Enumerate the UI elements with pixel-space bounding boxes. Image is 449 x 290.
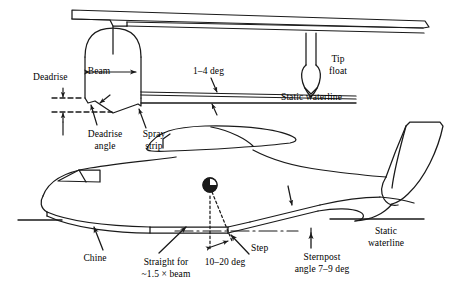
spray-strip-leader	[139, 109, 146, 128]
label-static-waterline-top: Static waterline	[281, 92, 342, 103]
label-sternpost-line1: Sternpost	[304, 252, 341, 263]
label-static-waterline-bottom-line2: waterline	[368, 238, 404, 249]
label-deadrise-angle-line2: angle	[94, 141, 115, 152]
straight-for-leader	[159, 227, 186, 253]
label-beam: Beam	[88, 66, 111, 77]
afterbody-angle-leader	[288, 186, 292, 205]
label-trim-angle: 1–4 deg	[193, 66, 224, 77]
label-deadrise-angle-line1: Deadrise	[88, 129, 123, 140]
label-static-waterline-bottom-line1: Static	[375, 226, 397, 237]
cg-reference-lines	[210, 192, 232, 250]
step-leader	[231, 235, 249, 254]
label-spray-strip-line2: strip	[145, 141, 162, 152]
deadrise-dimension	[52, 88, 112, 135]
wing-front-view	[72, 10, 429, 54]
figure-container: Deadrise Beam Deadrise angle Spray strip…	[0, 0, 449, 290]
label-deadrise: Deadrise	[33, 72, 68, 83]
label-step: Step	[251, 243, 268, 254]
label-sternpost-line2: angle 7–9 deg	[295, 264, 350, 275]
label-chine: Chine	[83, 253, 106, 264]
label-straight-for-line1: Straight for	[144, 257, 189, 268]
deadrise-angle-leader	[91, 95, 110, 125]
center-of-gravity-symbol	[203, 178, 217, 192]
label-spray-strip-line1: Spray	[143, 129, 166, 140]
label-tip-float-line1: Tip	[331, 54, 344, 65]
label-straight-for-line2: ~1.5 × beam	[142, 269, 191, 280]
label-forebody-angle: 10–20 deg	[205, 257, 246, 268]
tip-float	[302, 33, 321, 97]
label-tip-float-line2: float	[329, 66, 347, 77]
